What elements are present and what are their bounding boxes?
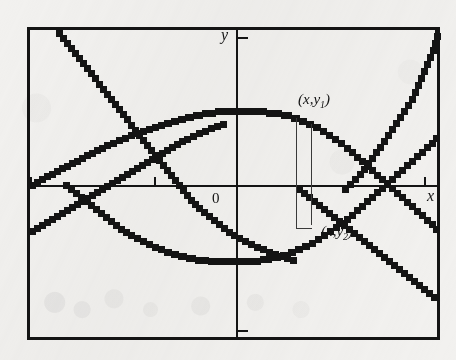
asymptote-rising-right [342, 29, 441, 193]
x-axis-label: x [427, 188, 434, 204]
origin-label: 0 [212, 191, 220, 206]
point-label-upper-close: ) [325, 91, 330, 107]
point-label-lower: (x,y2) [321, 224, 353, 242]
point-label-upper-text: (x,y [298, 91, 320, 107]
point-label-lower-text: (x,y [321, 223, 343, 239]
y-axis-label: y [221, 27, 228, 43]
point-label-upper: (x,y1) [298, 92, 330, 110]
point-label-lower-close: ) [348, 223, 353, 239]
figure-canvas: y x 0 (x,y1) (x,y2) [0, 0, 456, 360]
graph-plot [0, 0, 456, 360]
hyperbola-upper-branch [29, 108, 440, 233]
